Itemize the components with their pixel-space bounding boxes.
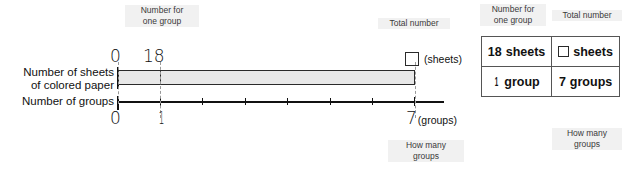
cell-total-count: 7 groups [552, 67, 620, 97]
cell-one-group-count-content: 1 group [487, 75, 546, 89]
callout-how-many-groups: How many groups [388, 140, 464, 162]
bottom-scale-unit: (groups) [418, 114, 457, 126]
table-header-col2-line1: Total number [552, 10, 622, 21]
callout-number-for-one-group-line2: one group [125, 16, 199, 27]
table-header-col1: Number for one group [480, 4, 546, 26]
table-footnote-how-many-groups: How many groups [552, 128, 622, 150]
cell-one-group-amount-content: 18 sheets [487, 45, 546, 59]
cell-one-group-amount-unit: sheets [506, 45, 546, 59]
axis-tick-5 [330, 98, 331, 105]
cell-total-count-unit: groups [570, 75, 612, 89]
table-header-col2: Total number [552, 10, 622, 21]
table-footnote-line1: How many [552, 128, 622, 139]
row-label-number-of-groups: Number of groups [4, 95, 114, 108]
cell-total-amount-unit: sheets [573, 45, 613, 59]
bottom-scale-end: 7 [406, 110, 417, 127]
table-header-col1-line2: one group [480, 15, 546, 26]
table-footnote-line2: groups [552, 139, 622, 150]
axis-tick-3 [245, 98, 246, 105]
guide-zero [118, 62, 119, 104]
bottom-scale-one: 1 [156, 110, 167, 127]
table-row: 18 sheets sheets [482, 37, 620, 67]
axis-tick-4 [287, 98, 288, 105]
axis-tick-2 [202, 98, 203, 105]
diagram-canvas: Number for one group Total number 0 18 (… [0, 0, 631, 178]
table-row: 1 group 7 groups [482, 67, 620, 97]
row-label-groups-line1: Number of groups [4, 95, 114, 108]
cell-one-group-count: 1 group [482, 67, 552, 97]
callout-number-for-one-group-line1: Number for [125, 5, 199, 16]
cell-total-amount-answer-box[interactable] [558, 46, 569, 57]
total-unit-label: (sheets) [424, 53, 462, 65]
total-answer-box[interactable] [405, 52, 419, 66]
callout-how-many-groups-line1: How many [388, 140, 464, 151]
callout-how-many-groups-line2: groups [388, 151, 464, 162]
total-answer-group: (sheets) [405, 52, 462, 66]
top-scale-zero: 0 [110, 48, 121, 65]
row-label-sheets-of-colored-paper: Number of sheets of colored paper [4, 66, 114, 91]
cell-total-amount: sheets [552, 37, 620, 67]
callout-number-for-one-group: Number for one group [125, 5, 199, 27]
number-line-axis [117, 101, 444, 103]
row-label-sheets-line1: Number of sheets [4, 66, 114, 79]
row-label-sheets-line2: of colored paper [4, 79, 114, 92]
axis-tick-6 [372, 98, 373, 105]
table-header-col1-line1: Number for [480, 4, 546, 15]
bottom-scale-end-group: 7 (groups) [406, 110, 457, 127]
cell-total-count-number: 7 [559, 75, 566, 89]
bottom-scale-zero: 0 [110, 110, 121, 127]
cell-total-count-content: 7 groups [557, 75, 614, 89]
quantity-bar [118, 70, 415, 85]
cell-one-group-amount: 18 sheets [482, 37, 552, 67]
cell-one-group-amount-number: 18 [488, 45, 502, 59]
callout-total-number: Total number [378, 18, 450, 29]
summary-table: 18 sheets sheets 1 group 7 [481, 36, 620, 97]
cell-total-amount-content: sheets [557, 45, 614, 59]
top-scale-one-group-value: 18 [143, 48, 165, 65]
cell-one-group-count-unit: group [504, 75, 539, 89]
cell-one-group-count-number: 1 [495, 75, 498, 89]
callout-total-number-line1: Total number [378, 18, 450, 29]
